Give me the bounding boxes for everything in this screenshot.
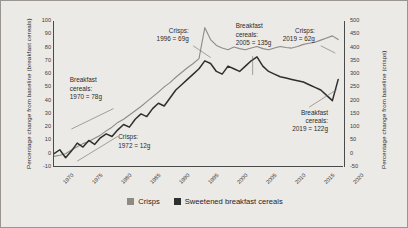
legend-item-1[interactable]: Sweetened breakfast cereals [174,197,283,206]
annotation-line: cereals: [236,31,272,39]
annotation-line: Crisps: [118,133,150,141]
y-tick-left-11: -10 [43,164,51,170]
annotation-line: Breakfast [292,109,328,117]
annotation-cereals-1970: Breakfastcereals:1970 = 78g [70,76,102,101]
annotation-line: Breakfast [70,76,102,84]
annotation-crisps-1996: Crisps:1996 = 69g [157,27,189,44]
legend-item-0[interactable]: Crisps [127,197,160,206]
x-tick-2005: 2005 [265,172,278,185]
y-axis-right-title: Percentage change from baseline (crisps) [380,50,387,169]
y-tick-right-1: 450 [350,31,359,37]
y-tick-left-0: 100 [42,18,51,24]
y-tick-right-2: 400 [350,45,359,51]
x-tick-1970: 1970 [62,172,75,185]
y-tick-right-4: 300 [350,71,359,77]
y-tick-right-9: 50 [350,137,356,143]
annotation-line: Breakfast [236,22,272,30]
y-tick-left-10: 0 [48,151,51,157]
y-tick-right-6: 200 [350,98,359,104]
y-axis-left-title: Percentage change from baseline (breakfa… [25,18,32,169]
y-tick-right-11: -50 [350,164,358,170]
annotation-line: cereals: [292,117,328,125]
legend-swatch-icon [127,198,134,205]
y-tick-right-0: 500 [350,18,359,24]
x-tick-1980: 1980 [120,172,133,185]
y-tick-left-3: 70 [45,58,51,64]
annotation-cereals-2005: Breakfastcereals:2005 = 135g [236,22,272,47]
annotation-line: Crisps: [157,27,189,35]
y-tick-left-8: 20 [45,124,51,130]
chart-legend: CrispsSweetened breakfast cereals [1,197,408,206]
y-tick-right-7: 150 [350,111,359,117]
x-tick-2015: 2015 [323,172,336,185]
y-axis-right-spine [344,21,345,167]
y-tick-left-5: 50 [45,84,51,90]
annotation-line: 1972 = 12g [118,142,150,150]
y-tick-left-2: 80 [45,45,51,51]
x-tick-1985: 1985 [149,172,162,185]
x-tick-2000: 2000 [236,172,249,185]
annotation-crisps-2019: Crisps:2019 = 62g [283,27,315,44]
leader-line-crisps-2019 [321,46,336,53]
legend-label: Sweetened breakfast cereals [185,197,283,206]
legend-label: Crisps [138,197,160,206]
x-tick-1995: 1995 [207,172,220,185]
y-tick-right-3: 350 [350,58,359,64]
x-tick-2010: 2010 [294,172,307,185]
y-tick-left-6: 40 [45,98,51,104]
y-tick-left-4: 60 [45,71,51,77]
annotation-line: 2005 = 135g [236,39,272,47]
series-line-cereals [54,57,338,158]
y-tick-left-7: 30 [45,111,51,117]
x-axis-ticks: 1970197519801985199019952000200520102015… [53,169,343,195]
y-tick-left-9: 10 [45,137,51,143]
y-tick-right-10: 0 [350,151,353,157]
leader-line-crisps-1996 [193,46,210,58]
annotation-line: cereals: [70,85,102,93]
leader-line-cereals-1970 [71,109,113,129]
annotation-line: 2019 = 62g [283,35,315,43]
annotation-line: 2019 = 122g [292,125,328,133]
annotation-line: Crisps: [283,27,315,35]
chart-figure: Percentage change from baseline (breakfa… [0,0,408,228]
y-tick-right-8: 100 [350,124,359,130]
annotation-cereals-2019: Breakfastcereals:2019 = 122g [292,109,328,134]
legend-swatch-icon [174,198,181,205]
x-tick-1975: 1975 [91,172,104,185]
y-tick-right-5: 250 [350,84,359,90]
y-tick-left-1: 90 [45,31,51,37]
annotation-crisps-1972: Crisps:1972 = 12g [118,133,150,150]
annotation-line: 1996 = 69g [157,35,189,43]
annotation-line: 1970 = 78g [70,93,102,101]
x-tick-1990: 1990 [178,172,191,185]
x-tick-2020: 2020 [352,172,365,185]
